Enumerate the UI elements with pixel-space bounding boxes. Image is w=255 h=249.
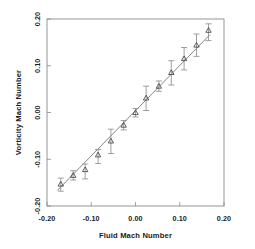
x-axis-title: Fluid Mach Number: [99, 231, 172, 240]
x-tick-label-0: -0.20: [39, 214, 56, 223]
x-tick-label-2: 0.00: [128, 214, 142, 223]
y-tick-label-1: 0.10: [33, 59, 42, 73]
y-tick-label-4: -0.20: [33, 198, 42, 215]
chart-figure: 0.20 0.10 0.00 -0.10 -0.20 -0.20 -0.10 0…: [0, 0, 255, 249]
x-axis-tick-labels: -0.20 -0.10 0.00 0.10 0.20: [39, 214, 232, 223]
x-axis-ticks: [47, 202, 224, 206]
data-point: [168, 61, 174, 85]
y-axis-ticks: [47, 19, 51, 206]
y-tick-label-2: 0.00: [33, 105, 42, 119]
data-point: [108, 129, 114, 153]
data-point: [82, 164, 88, 179]
data-point: [143, 86, 149, 110]
y-tick-label-3: -0.10: [33, 151, 42, 168]
data-point: [194, 34, 200, 56]
x-tick-label-4: 0.20: [217, 214, 231, 223]
x-tick-label-3: 0.10: [173, 214, 187, 223]
x-tick-label-1: -0.10: [83, 214, 100, 223]
chart-plot-svg: 0.20 0.10 0.00 -0.10 -0.20 -0.20 -0.10 0…: [0, 0, 255, 249]
y-axis-tick-labels: 0.20 0.10 0.00 -0.10 -0.20: [33, 12, 42, 215]
data-point: [156, 81, 162, 91]
y-tick-label-0: 0.20: [33, 12, 42, 26]
data-point: [95, 150, 101, 164]
y-axis-title: Vorticity Mach Number: [14, 70, 23, 155]
